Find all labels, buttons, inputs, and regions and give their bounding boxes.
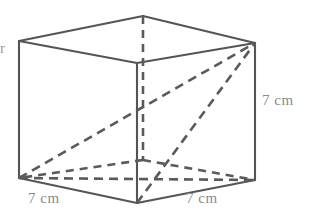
cube-figure-svg xyxy=(0,0,315,220)
edge-hidden-bottom-back-right xyxy=(143,160,255,180)
dimension-label-bottom-right: 7 cm xyxy=(186,190,218,207)
dimension-label-bottom-left: 7 cm xyxy=(28,190,60,207)
edge-top-back-right xyxy=(143,16,255,43)
cube-diagram: r 7 cm 7 cm 7 cm xyxy=(0,0,315,220)
dimension-label-right-side: 7 cm xyxy=(262,92,294,109)
clipped-edge-glyph: r xyxy=(0,36,5,60)
edge-hidden-bottom-back-left xyxy=(19,160,143,178)
edge-top-front-left xyxy=(19,41,137,63)
edge-top-left-back xyxy=(19,16,143,41)
edge-top-right-front xyxy=(137,43,255,63)
